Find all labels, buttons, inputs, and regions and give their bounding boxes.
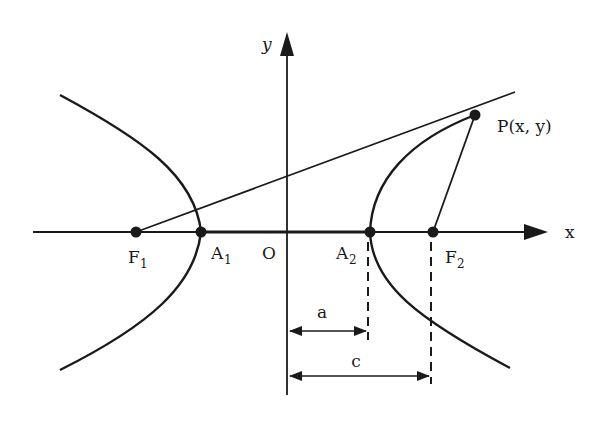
label-a2: A 2: [335, 243, 357, 267]
y-axis: [280, 32, 294, 395]
label-p: P(x, y): [497, 116, 552, 136]
svg-text:A: A: [210, 243, 224, 263]
label-f2: F 2: [445, 247, 465, 271]
svg-text:F: F: [128, 247, 140, 267]
point-p: [470, 110, 481, 121]
y-axis-label: y: [261, 34, 272, 54]
arrow-left-icon: [289, 326, 302, 336]
dimension-c: c: [289, 351, 430, 381]
x-axis-arrow-icon: [524, 224, 548, 240]
dimension-c-label: c: [351, 351, 361, 371]
point-f1: [131, 227, 142, 238]
hyperbola-diagram: a c y x O F 1 A 1 A 2 F 2 P(x, y): [0, 0, 604, 424]
svg-text:1: 1: [140, 257, 148, 271]
point-a2: [365, 227, 376, 238]
y-axis-arrow-icon: [280, 32, 294, 56]
label-f1: F 1: [128, 247, 148, 271]
svg-text:1: 1: [224, 253, 232, 267]
arrow-right-icon: [354, 326, 367, 336]
label-a1: A 1: [210, 243, 232, 267]
arrow-left-icon: [289, 371, 302, 381]
x-axis-label: x: [565, 222, 575, 242]
dimension-a: a: [289, 302, 367, 336]
point-f2: [428, 227, 439, 238]
dimension-a-label: a: [317, 302, 327, 322]
hyperbola-right-branch: [370, 115, 510, 368]
point-a1: [196, 227, 207, 238]
svg-text:2: 2: [457, 257, 465, 271]
arrow-right-icon: [417, 371, 430, 381]
svg-text:A: A: [335, 243, 349, 263]
svg-text:2: 2: [349, 253, 357, 267]
svg-text:F: F: [445, 247, 457, 267]
origin-label: O: [262, 243, 276, 263]
